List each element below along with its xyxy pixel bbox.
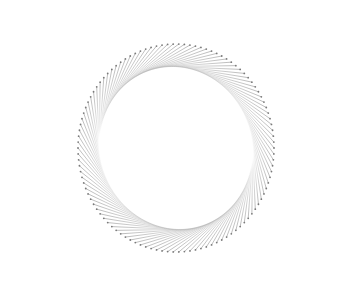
pin-dot bbox=[134, 52, 136, 54]
pin-dot bbox=[269, 176, 271, 178]
pin-dot bbox=[87, 193, 89, 195]
pin-dot bbox=[221, 239, 223, 241]
pin-dot bbox=[183, 43, 185, 45]
pin-dot bbox=[77, 153, 79, 155]
pin-dot bbox=[77, 147, 79, 149]
pin-dot bbox=[226, 236, 228, 238]
pin-dot bbox=[83, 182, 85, 184]
pin-dot bbox=[273, 153, 275, 155]
pin-dot bbox=[172, 251, 174, 253]
pin-dot bbox=[120, 233, 122, 235]
pin-dot bbox=[258, 203, 260, 205]
pin-dot bbox=[254, 208, 256, 210]
pin-dot bbox=[263, 193, 265, 195]
pin-dot bbox=[167, 251, 169, 253]
pin-dot bbox=[161, 44, 163, 46]
pin-dot bbox=[129, 55, 131, 57]
pin-dot bbox=[120, 61, 122, 63]
pin-dot bbox=[178, 43, 180, 45]
pin-line bbox=[85, 188, 159, 229]
pin-dot bbox=[251, 81, 253, 83]
pin-dot bbox=[111, 69, 113, 71]
pin-dot bbox=[267, 112, 269, 114]
pin-dot bbox=[103, 77, 105, 79]
pin-line bbox=[167, 205, 239, 253]
pin-dot bbox=[267, 182, 269, 184]
pin-dot bbox=[81, 118, 83, 120]
pin-dot bbox=[243, 222, 245, 224]
pin-dot bbox=[93, 91, 95, 93]
pin-dot bbox=[78, 159, 80, 161]
pin-dot bbox=[265, 107, 267, 109]
pin-dot bbox=[260, 198, 262, 200]
pin-dot bbox=[172, 43, 174, 45]
pin-dot bbox=[239, 226, 241, 228]
pin-dot bbox=[96, 208, 98, 210]
pin-dot bbox=[272, 159, 274, 161]
pin-dot bbox=[124, 58, 126, 60]
pin-dot bbox=[129, 239, 131, 241]
pin-dot bbox=[178, 251, 180, 253]
pin-dot bbox=[161, 250, 163, 252]
pin-dot bbox=[140, 50, 142, 52]
pin-dot bbox=[260, 96, 262, 98]
pin-line bbox=[171, 63, 256, 87]
pin-dot bbox=[271, 171, 273, 173]
pin-dot bbox=[195, 45, 197, 47]
pin-dot bbox=[200, 47, 202, 49]
pin-dot bbox=[216, 242, 218, 244]
pin-dot bbox=[235, 65, 237, 67]
pin-dot bbox=[93, 203, 95, 205]
pin-dot bbox=[156, 249, 158, 251]
pin-dot bbox=[99, 213, 101, 215]
pin-dot bbox=[107, 222, 109, 224]
pin-dot bbox=[145, 246, 147, 248]
pin-dot bbox=[111, 226, 113, 228]
pin-dot bbox=[83, 112, 85, 114]
pin-dot bbox=[189, 44, 191, 46]
pin-dot bbox=[230, 61, 232, 63]
pin-dot bbox=[243, 73, 245, 75]
pin-line bbox=[193, 68, 267, 109]
pin-dot bbox=[216, 52, 218, 54]
pin-dot bbox=[226, 58, 228, 60]
pin-dot bbox=[183, 251, 185, 253]
pin-line bbox=[200, 187, 247, 249]
pin-dot bbox=[85, 107, 87, 109]
pin-dot bbox=[235, 229, 237, 231]
pin-dot bbox=[150, 47, 152, 49]
pin-dot bbox=[247, 217, 249, 219]
pin-dot bbox=[99, 81, 101, 83]
pin-line bbox=[90, 198, 170, 231]
pin-dot bbox=[103, 217, 105, 219]
pin-dot bbox=[205, 48, 207, 50]
pin-dot bbox=[254, 86, 256, 88]
pin-dot bbox=[258, 91, 260, 93]
pin-dot bbox=[230, 233, 232, 235]
pin-dot bbox=[265, 188, 267, 190]
pin-dot bbox=[90, 198, 92, 200]
pin-line bbox=[113, 43, 185, 91]
pin-dot bbox=[271, 124, 273, 126]
pin-dot bbox=[195, 249, 197, 251]
radial-spiral-artwork bbox=[0, 0, 343, 305]
pin-dot bbox=[189, 250, 191, 252]
pin-dot bbox=[221, 55, 223, 57]
pin-dot bbox=[167, 43, 169, 45]
pin-dot bbox=[272, 129, 274, 131]
pin-dot bbox=[79, 129, 81, 131]
pin-dot bbox=[115, 229, 117, 231]
pin-dot bbox=[90, 96, 92, 98]
pin-dot bbox=[200, 248, 202, 250]
pin-line bbox=[80, 124, 108, 183]
pin-dot bbox=[81, 176, 83, 178]
pin-dot bbox=[211, 50, 213, 52]
pin-dot bbox=[272, 165, 274, 167]
pin-dot bbox=[85, 188, 87, 190]
pin-dot bbox=[150, 248, 152, 250]
pin-dot bbox=[124, 236, 126, 238]
pin-dot bbox=[80, 124, 82, 126]
pin-dot bbox=[205, 246, 207, 248]
pin-dot bbox=[107, 73, 109, 75]
pin-dot bbox=[251, 213, 253, 215]
